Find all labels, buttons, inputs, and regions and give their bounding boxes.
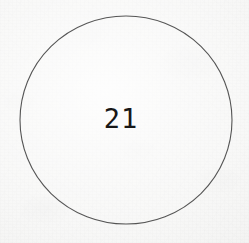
scanned-page: 21	[0, 0, 249, 243]
circled-number-value: 21	[0, 104, 242, 134]
